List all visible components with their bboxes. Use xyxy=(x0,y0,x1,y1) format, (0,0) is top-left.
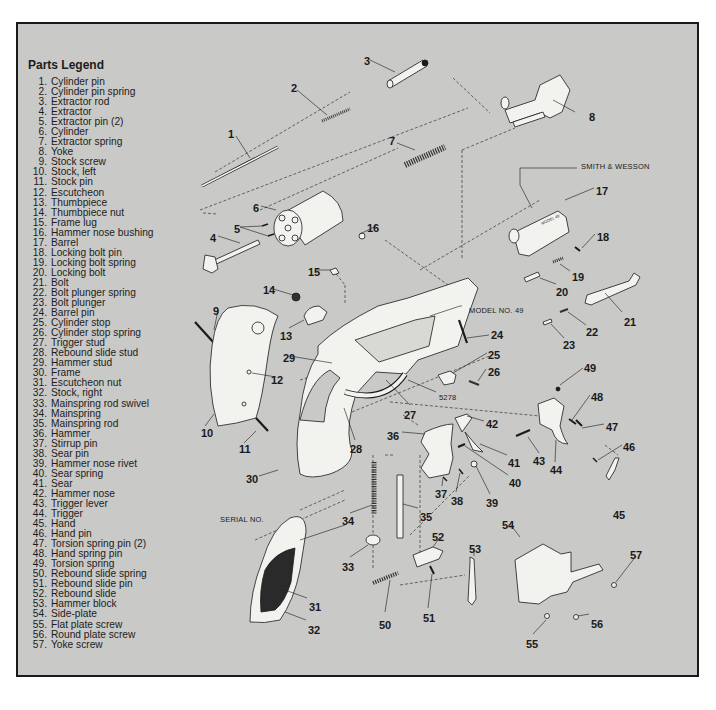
part-callout: 24 xyxy=(491,329,503,341)
part-hand xyxy=(606,458,619,480)
part-callout: 44 xyxy=(550,464,562,476)
part-callout: 23 xyxy=(563,339,575,351)
part-callout: 42 xyxy=(486,418,498,430)
part-callout: 47 xyxy=(606,421,618,433)
part-callout: 27 xyxy=(404,409,416,421)
part-callout: 33 xyxy=(342,561,354,573)
part-callout: 7 xyxy=(389,135,395,147)
part-callout: 1 xyxy=(228,128,234,140)
serial-annotation: SERIAL NO. xyxy=(220,515,264,524)
part-trigger xyxy=(538,398,568,444)
part-callout: 57 xyxy=(630,549,642,561)
part-side-plate xyxy=(515,544,603,604)
part-callout: 25 xyxy=(488,349,500,361)
part-callout: 30 xyxy=(246,473,258,485)
part-callout: 39 xyxy=(486,497,498,509)
model-annotation: MODEL NO. 49 xyxy=(469,306,524,315)
part-callout: 21 xyxy=(624,316,636,328)
part-callout: 46 xyxy=(623,441,635,453)
part-callout: 37 xyxy=(435,488,447,500)
part-callout: 38 xyxy=(451,495,463,507)
part-callout: 50 xyxy=(379,619,391,631)
part-callout: 13 xyxy=(280,330,292,342)
part-callout: 17 xyxy=(596,185,608,197)
part-bolt xyxy=(585,273,640,305)
part-callout: 20 xyxy=(556,286,568,298)
part-callout: 35 xyxy=(420,511,432,523)
part-callout: 10 xyxy=(201,427,213,439)
part-callout: 36 xyxy=(387,430,399,442)
part-callout: 45 xyxy=(613,509,625,521)
part-callout: 15 xyxy=(308,266,320,278)
part-callout: 5 xyxy=(234,223,240,235)
part-extractor xyxy=(203,240,260,273)
part-barrel: MODEL 49 xyxy=(509,211,569,256)
part-hammer xyxy=(421,424,453,478)
frame-number-annotation: 5278 xyxy=(439,393,457,402)
brand-annotation: SMITH & WESSON xyxy=(581,162,650,171)
part-extractor-rod xyxy=(387,60,428,88)
part-extractor-spring xyxy=(405,147,445,165)
part-callout: 54 xyxy=(502,519,514,531)
part-callout: 49 xyxy=(584,362,596,374)
part-callout: 32 xyxy=(308,624,320,636)
part-callout: 12 xyxy=(271,374,283,386)
part-callout: 9 xyxy=(213,305,219,317)
part-callout: 40 xyxy=(509,477,521,489)
part-callout: 4 xyxy=(210,232,216,244)
part-callout: 55 xyxy=(526,638,538,650)
part-callout: 34 xyxy=(342,515,354,527)
part-cylinder-pin xyxy=(202,147,278,186)
part-callout: 18 xyxy=(597,231,609,243)
part-callout: 29 xyxy=(283,352,295,364)
part-callout: 19 xyxy=(572,271,584,283)
part-callout: 43 xyxy=(533,455,545,467)
part-callout: 6 xyxy=(253,202,259,214)
part-callout: 16 xyxy=(367,222,379,234)
part-callout: 3 xyxy=(364,55,370,67)
part-callout: 52 xyxy=(432,531,444,543)
part-stock-left xyxy=(210,305,278,426)
part-yoke xyxy=(501,75,570,127)
part-callout: 14 xyxy=(263,284,275,296)
part-callout: 2 xyxy=(291,82,297,94)
part-callout: 53 xyxy=(469,543,481,555)
part-callout: 51 xyxy=(423,612,435,624)
part-callout: 11 xyxy=(239,443,251,455)
part-callout: 48 xyxy=(591,391,603,403)
part-callout: 41 xyxy=(508,457,520,469)
part-callout: 22 xyxy=(586,326,598,338)
exploded-view-drawing: MODEL 49 xyxy=(0,0,716,710)
part-callout: 26 xyxy=(488,366,500,378)
part-callout: 28 xyxy=(350,443,362,455)
part-callout: 31 xyxy=(309,601,321,613)
part-callout: 8 xyxy=(589,111,595,123)
part-callout: 56 xyxy=(591,618,603,630)
part-cylinder-pin-spring xyxy=(322,109,350,121)
